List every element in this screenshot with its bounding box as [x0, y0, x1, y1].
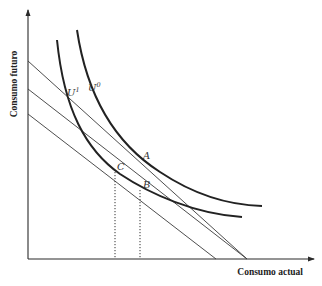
x-axis-label: Consumo actual [237, 267, 303, 277]
point-label-a: A [142, 150, 150, 161]
label-u1: U1 [67, 86, 80, 98]
point-label-c: C [117, 161, 125, 172]
point-label-b: B [142, 179, 150, 190]
indifference-curve-diagram: U1 U0 A B C Consumo actual Consumo futur… [0, 0, 322, 286]
budget-line-2 [28, 89, 247, 259]
budget-line-3 [28, 114, 216, 259]
budget-line-1 [28, 61, 247, 259]
y-axis-label: Consumo futuro [9, 50, 19, 117]
label-u0: U0 [88, 81, 101, 93]
indifference-curve-u0 [77, 30, 262, 206]
